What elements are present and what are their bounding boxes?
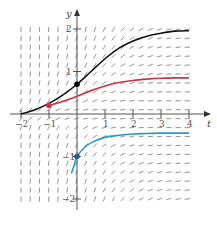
slope-mark bbox=[93, 127, 98, 129]
slope-mark bbox=[84, 135, 88, 139]
slope-mark bbox=[83, 118, 88, 119]
slope-mark bbox=[67, 45, 68, 50]
slope-mark bbox=[175, 65, 180, 66]
slope-mark bbox=[103, 179, 106, 183]
slope-mark bbox=[93, 152, 96, 156]
slope-mark bbox=[185, 199, 190, 200]
slope-mark bbox=[139, 180, 144, 182]
slope-mark bbox=[148, 171, 153, 173]
slope-mark bbox=[148, 163, 153, 164]
slope-mark bbox=[58, 54, 59, 59]
slope-mark bbox=[21, 89, 22, 94]
slope-mark bbox=[94, 36, 96, 41]
slope-mark bbox=[75, 90, 78, 94]
slope-mark bbox=[130, 55, 135, 58]
slope-mark bbox=[94, 179, 96, 184]
x-ticks: −2−11234 bbox=[15, 110, 193, 129]
x-tick-label: 1 bbox=[103, 119, 109, 129]
slope-mark bbox=[111, 144, 116, 147]
slope-mark bbox=[139, 46, 144, 48]
slope-mark bbox=[94, 45, 96, 50]
x-tick-label: −2 bbox=[15, 119, 28, 129]
slope-mark bbox=[120, 100, 125, 101]
t-axis-label: t bbox=[207, 118, 212, 129]
slope-mark bbox=[92, 118, 97, 119]
slope-mark bbox=[103, 45, 106, 49]
slope-mark bbox=[176, 199, 181, 200]
slope-mark bbox=[65, 118, 70, 120]
slope-mark bbox=[130, 28, 134, 31]
slope-mark bbox=[120, 136, 125, 137]
slope-mark bbox=[139, 189, 144, 192]
slope-mark bbox=[57, 143, 59, 148]
slope-mark bbox=[176, 38, 181, 39]
slope-mark bbox=[130, 180, 134, 183]
slope-mark bbox=[56, 118, 61, 120]
slope-mark bbox=[30, 80, 31, 85]
slope-mark bbox=[66, 134, 69, 139]
slope-mark bbox=[39, 80, 40, 85]
slope-mark bbox=[139, 198, 143, 201]
slope-mark bbox=[121, 179, 125, 182]
slope-mark bbox=[148, 55, 153, 57]
slope-mark bbox=[112, 54, 116, 58]
slope-mark bbox=[39, 161, 40, 166]
slope-mark bbox=[74, 126, 78, 129]
slope-mark bbox=[58, 187, 59, 192]
t-axis-arrow-icon bbox=[204, 111, 211, 117]
slope-mark bbox=[148, 83, 153, 84]
slope-mark bbox=[30, 134, 31, 139]
slope-mark bbox=[94, 161, 97, 165]
slope-mark bbox=[102, 81, 106, 84]
slope-mark bbox=[48, 179, 49, 184]
slope-mark bbox=[94, 27, 96, 32]
y-tick-label: 1 bbox=[66, 67, 72, 77]
slope-mark bbox=[148, 74, 153, 75]
slope-mark bbox=[57, 63, 58, 68]
slope-mark bbox=[102, 153, 106, 157]
slope-mark bbox=[93, 72, 96, 76]
slope-mark bbox=[38, 117, 42, 120]
slope-mark bbox=[29, 117, 32, 121]
slope-mark bbox=[56, 109, 61, 111]
slope-mark bbox=[93, 90, 97, 93]
black-solution-curve bbox=[21, 31, 189, 114]
slope-mark bbox=[166, 56, 171, 57]
slope-mark bbox=[130, 162, 135, 164]
slope-mark bbox=[130, 64, 135, 66]
slope-mark bbox=[111, 91, 116, 93]
slope-mark bbox=[93, 144, 97, 148]
slope-mark bbox=[74, 109, 79, 110]
slope-mark bbox=[92, 109, 97, 110]
slope-mark bbox=[185, 38, 190, 39]
slope-mark bbox=[176, 172, 181, 173]
slope-mark bbox=[30, 71, 31, 76]
slope-mark bbox=[48, 143, 49, 148]
slope-mark bbox=[148, 64, 153, 65]
x-tick-label: 4 bbox=[187, 119, 193, 129]
slope-mark bbox=[120, 153, 125, 155]
slope-mark bbox=[39, 152, 40, 157]
slope-mark bbox=[130, 197, 134, 200]
slope-mark bbox=[85, 63, 87, 68]
slope-mark bbox=[58, 27, 59, 32]
black-solution-initial-point bbox=[74, 81, 80, 87]
slope-mark bbox=[66, 81, 68, 86]
slope-mark bbox=[139, 55, 144, 57]
slope-mark bbox=[65, 109, 70, 111]
slope-mark bbox=[74, 99, 78, 102]
slope-mark bbox=[139, 127, 144, 128]
slope-mark bbox=[111, 153, 115, 156]
slope-mark bbox=[148, 145, 153, 146]
slope-mark bbox=[84, 81, 87, 85]
slope-mark bbox=[120, 162, 124, 165]
slope-mark bbox=[166, 29, 171, 30]
slope-mark bbox=[94, 54, 96, 59]
slope-mark bbox=[166, 172, 171, 173]
slope-mark bbox=[57, 80, 59, 85]
slope-mark bbox=[166, 47, 171, 48]
slope-mark bbox=[103, 197, 105, 202]
slope-mark bbox=[84, 152, 87, 157]
slope-mark bbox=[129, 100, 134, 101]
slope-mark bbox=[102, 144, 106, 147]
